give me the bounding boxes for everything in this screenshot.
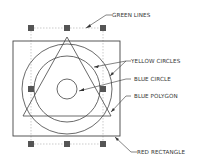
cad-diagram: GREEN LINES YELLOW CIRCLES BLUE CIRCLE B…: [0, 0, 199, 166]
label-green-lines: GREEN LINES: [112, 12, 151, 18]
grip-square[interactable]: [28, 141, 34, 147]
diagram-canvas: GREEN LINES YELLOW CIRCLES BLUE CIRCLE B…: [0, 0, 199, 166]
grip-square[interactable]: [100, 86, 106, 92]
grip-square[interactable]: [28, 86, 34, 92]
label-blue-polygon: BLUE POLYGON: [134, 93, 178, 99]
label-blue-circle: BLUE CIRCLE: [134, 76, 171, 82]
blue-circle[interactable]: [57, 79, 77, 99]
yellow-circle-outer[interactable]: [22, 44, 112, 134]
yellow-circle-inner[interactable]: [34, 56, 100, 122]
label-yellow-circles: YELLOW CIRCLES: [130, 58, 181, 64]
grip-square[interactable]: [100, 141, 106, 147]
grip-square[interactable]: [64, 141, 70, 147]
leader-lines: [79, 15, 137, 152]
grip-square[interactable]: [28, 25, 34, 31]
label-red-rectangle: RED RECTANGLE: [137, 149, 185, 155]
grip-square[interactable]: [64, 25, 70, 31]
grip-square[interactable]: [100, 25, 106, 31]
